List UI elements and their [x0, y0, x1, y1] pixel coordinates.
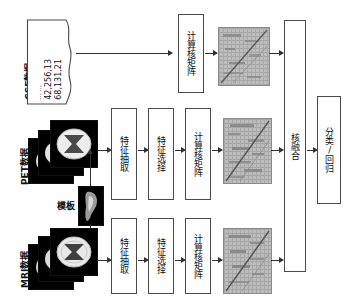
- arrow-kernelbox-to-matrix-csf: [205, 53, 217, 54]
- csf-value-line-1: 68,131,21: [54, 59, 63, 100]
- feature-selection-pet-label: 特征选择: [156, 136, 165, 172]
- arrow-template-to-pet: [90, 150, 91, 186]
- arrow-fusion-to-classification: [307, 150, 317, 151]
- arrow-matrix-mri-to-fusion: [271, 260, 283, 261]
- arrow-csf-to-kernel: [76, 53, 172, 54]
- arrow-fs-to-kernel-mri: [175, 260, 185, 261]
- template-image: [78, 186, 104, 226]
- classification-regression-box[interactable]: 分类/回归: [317, 96, 341, 204]
- feature-extraction-mri-box[interactable]: 特征抽取: [111, 218, 137, 294]
- arrow-mri-to-feature-extraction: [97, 260, 111, 261]
- arrow-fe-to-fs-mri: [138, 260, 148, 261]
- pet-image-stack: [28, 120, 96, 188]
- csf-value-line-2: 42,256,13: [44, 59, 53, 100]
- feature-extraction-mri-label: 特征抽取: [119, 238, 128, 274]
- arrow-kernelbox-to-matrix-pet: [212, 150, 222, 151]
- csf-values-group: 68,131,21 42,256,13 ……: [29, 24, 69, 100]
- compute-kernel-matrix-csf-box[interactable]: 计算核矩阵: [178, 14, 204, 93]
- arrow-fs-to-kernel-pet: [175, 150, 185, 151]
- classification-regression-label: 分类/回归: [324, 127, 333, 173]
- flow-diagram-canvas: CSF数据 68,131,21 42,256,13 …… 计算核矩阵: [0, 0, 349, 302]
- kernel-matrix-image-csf: [218, 27, 270, 86]
- arrow-matrix-csf-to-fusion: [269, 53, 283, 54]
- compute-kernel-matrix-mri-box[interactable]: 计算核矩阵: [185, 218, 211, 294]
- mri-image-stack: [28, 228, 96, 294]
- compute-kernel-matrix-pet-label: 计算核矩阵: [193, 132, 202, 177]
- csf-value-ellipsis: ……: [35, 84, 43, 100]
- feature-selection-mri-label: 特征选择: [156, 238, 165, 274]
- feature-extraction-pet-box[interactable]: 特征抽取: [111, 108, 137, 200]
- arrow-kernelbox-to-matrix-mri: [212, 260, 222, 261]
- arrow-matrix-pet-to-fusion: [271, 150, 283, 151]
- mri-slice-front: [50, 228, 98, 276]
- kernel-fusion-box[interactable]: 核融合: [284, 20, 306, 272]
- feature-selection-pet-box[interactable]: 特征选择: [148, 108, 174, 200]
- csf-data-block: 68,131,21 42,256,13 ……: [26, 18, 80, 106]
- feature-extraction-pet-label: 特征抽取: [119, 136, 128, 172]
- arrow-pet-to-feature-extraction: [97, 150, 111, 151]
- kernel-matrix-image-pet: [223, 118, 272, 184]
- kernel-fusion-label: 核融合: [290, 133, 299, 160]
- arrow-fe-to-fs-pet: [138, 150, 148, 151]
- compute-kernel-matrix-mri-label: 计算核矩阵: [193, 234, 202, 279]
- template-label: 模板: [57, 199, 75, 212]
- compute-kernel-matrix-pet-box[interactable]: 计算核矩阵: [185, 108, 211, 200]
- compute-kernel-matrix-csf-label: 计算核矩阵: [186, 31, 195, 76]
- feature-selection-mri-box[interactable]: 特征选择: [148, 218, 174, 294]
- kernel-matrix-image-mri: [223, 228, 272, 294]
